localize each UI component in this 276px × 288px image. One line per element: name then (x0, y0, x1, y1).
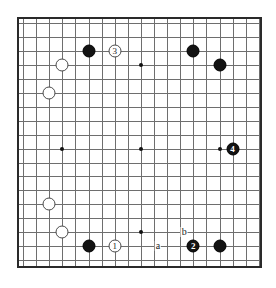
star-center-bottom (139, 230, 143, 234)
grid-line-vertical (220, 19, 221, 266)
grid-line-horizontal (19, 163, 260, 164)
grid-line-horizontal (19, 51, 260, 52)
grid-line-vertical (246, 19, 247, 266)
grid-line-vertical (23, 19, 24, 266)
grid-line-horizontal (19, 260, 260, 261)
star-left-middle (60, 147, 64, 151)
grid-line-vertical (141, 19, 142, 266)
black-stone-top-right-b[interactable] (213, 58, 226, 71)
white-stone-move-1[interactable]: 1 (108, 240, 121, 253)
grid-line-vertical (102, 19, 103, 266)
grid-line-vertical (167, 19, 168, 266)
grid-line-vertical (36, 19, 37, 266)
black-stone-move-2[interactable]: 2 (187, 240, 200, 253)
grid-line-horizontal (19, 107, 260, 108)
grid-line-horizontal (19, 190, 260, 191)
white-stone-upper-left-b[interactable] (43, 86, 56, 99)
black-stone-top-right-a[interactable] (187, 44, 200, 57)
white-stone-move-3[interactable]: 3 (108, 44, 121, 57)
stone-move-number: 3 (112, 46, 117, 55)
grid-line-horizontal (19, 176, 260, 177)
white-stone-lower-left-b[interactable] (56, 226, 69, 239)
stone-move-number: 1 (112, 242, 117, 251)
point-label-b: b (181, 227, 188, 237)
star-center-top (139, 63, 143, 67)
white-stone-upper-left-a[interactable] (56, 58, 69, 71)
grid-line-vertical (75, 19, 76, 266)
star-center (139, 147, 143, 151)
star-right-middle (218, 147, 222, 151)
black-stone-top-left[interactable] (82, 44, 95, 57)
grid-line-horizontal (19, 37, 260, 38)
grid-line-horizontal (19, 23, 260, 24)
go-board[interactable]: 3412ab (17, 17, 262, 268)
grid-line-vertical (49, 19, 50, 266)
point-label-a: a (155, 241, 161, 251)
stone-move-number: 2 (191, 242, 196, 251)
grid-line-horizontal (19, 135, 260, 136)
grid-line-vertical (206, 19, 207, 266)
grid-line-vertical (259, 19, 260, 266)
grid-line-vertical (128, 19, 129, 266)
black-stone-bottom-right[interactable] (213, 240, 226, 253)
black-stone-move-4[interactable]: 4 (226, 142, 239, 155)
grid-line-vertical (154, 19, 155, 266)
white-stone-lower-left-a[interactable] (43, 198, 56, 211)
go-diagram-figure: 3412ab (0, 0, 276, 288)
stone-move-number: 4 (230, 144, 235, 153)
go-board-grid (19, 19, 260, 266)
black-stone-bottom-left[interactable] (82, 240, 95, 253)
grid-line-horizontal (19, 79, 260, 80)
grid-line-horizontal (19, 218, 260, 219)
grid-line-horizontal (19, 121, 260, 122)
